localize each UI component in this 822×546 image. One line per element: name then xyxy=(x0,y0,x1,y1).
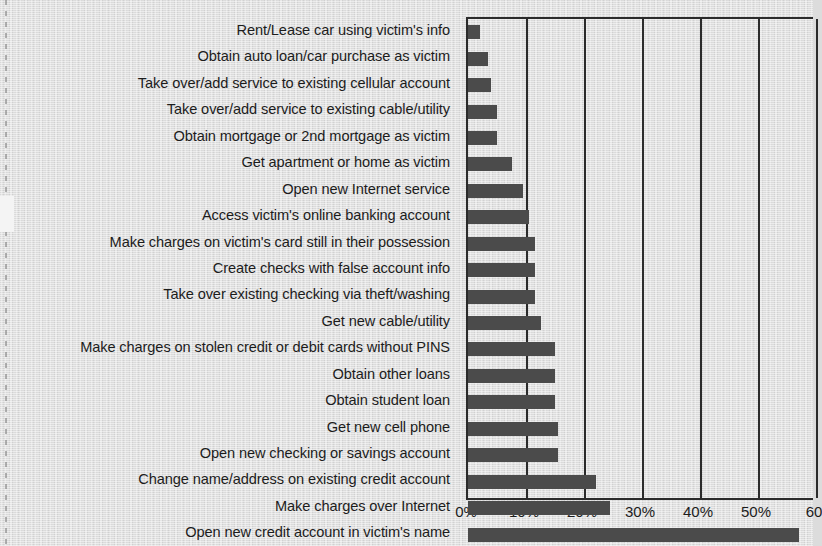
bar-row xyxy=(468,178,813,204)
bar xyxy=(468,105,497,119)
category-label: Open new Internet service xyxy=(0,176,458,202)
bar xyxy=(468,157,512,171)
scan-edge-dashed-line xyxy=(5,0,7,546)
bar xyxy=(468,342,555,356)
category-label: Make charges on stolen credit or debit c… xyxy=(0,334,458,360)
bar-row xyxy=(468,45,813,71)
category-label: Obtain mortgage or 2nd mortgage as victi… xyxy=(0,123,458,149)
category-label: Take over/add service to existing cellul… xyxy=(0,70,458,96)
bar-row xyxy=(468,363,813,389)
bar xyxy=(468,448,558,462)
bar xyxy=(468,237,535,251)
category-label: Change name/address on existing credit a… xyxy=(0,466,458,492)
bar xyxy=(468,501,610,515)
gridline-60 xyxy=(816,19,818,498)
bar-row xyxy=(468,416,813,442)
category-label: Make charges on victim's card still in t… xyxy=(0,229,458,255)
bar-row xyxy=(468,336,813,362)
category-label: Rent/Lease car using victim's info xyxy=(0,17,458,43)
bar-row xyxy=(468,521,813,546)
bar xyxy=(468,422,558,436)
bar-row xyxy=(468,125,813,151)
bar-series xyxy=(468,19,813,498)
category-axis-labels: Rent/Lease car using victim's infoObtain… xyxy=(0,17,458,546)
plot-area xyxy=(466,17,813,500)
category-label: Obtain student loan xyxy=(0,387,458,413)
category-label: Make charges over Internet xyxy=(0,493,458,519)
bar xyxy=(468,184,523,198)
bar xyxy=(468,263,535,277)
scan-edge-white-gap xyxy=(0,196,14,232)
bar xyxy=(468,475,596,489)
category-label: Take over existing checking via theft/wa… xyxy=(0,281,458,307)
bar xyxy=(468,25,480,39)
category-label: Get new cell phone xyxy=(0,414,458,440)
category-label: Access victim's online banking account xyxy=(0,202,458,228)
bar xyxy=(468,131,497,145)
bar-row xyxy=(468,389,813,415)
category-label: Open new checking or savings account xyxy=(0,440,458,466)
bar-row xyxy=(468,204,813,230)
category-label: Take over/add service to existing cable/… xyxy=(0,96,458,122)
category-label: Open new credit account in victim's name xyxy=(0,519,458,545)
bar-row xyxy=(468,468,813,494)
bar-row xyxy=(468,72,813,98)
category-label: Get apartment or home as victim xyxy=(0,149,458,175)
bar xyxy=(468,369,555,383)
bar-row xyxy=(468,495,813,521)
bar-row xyxy=(468,442,813,468)
bar-row xyxy=(468,231,813,257)
bar-row xyxy=(468,98,813,124)
bar xyxy=(468,528,799,542)
category-label: Obtain auto loan/car purchase as victim xyxy=(0,43,458,69)
category-label: Get new cable/utility xyxy=(0,308,458,334)
bar xyxy=(468,316,541,330)
category-label: Create checks with false account info xyxy=(0,255,458,281)
bar-row xyxy=(468,310,813,336)
bar xyxy=(468,210,529,224)
bar xyxy=(468,52,488,66)
bar xyxy=(468,395,555,409)
category-label: Obtain other loans xyxy=(0,361,458,387)
bar xyxy=(468,78,491,92)
bar-row xyxy=(468,151,813,177)
bar-row xyxy=(468,283,813,309)
bar-row xyxy=(468,257,813,283)
bar xyxy=(468,290,535,304)
bar-row xyxy=(468,19,813,45)
